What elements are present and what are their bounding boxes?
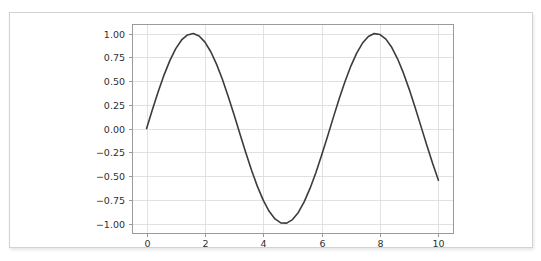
y-tick-label: −0.25 [96, 147, 125, 158]
x-tick-label: 4 [260, 238, 266, 247]
sine-wave-chart[interactable]: −1.00−0.75−0.50−0.250.000.250.500.751.00… [10, 13, 532, 247]
y-tick-label: 0.75 [104, 52, 125, 63]
x-tick-label: 10 [432, 238, 444, 247]
y-tick-label: −1.00 [96, 219, 125, 230]
screenshot-root: −1.00−0.75−0.50−0.250.000.250.500.751.00… [0, 0, 541, 261]
y-tick-label: −0.50 [96, 171, 125, 182]
x-tick-label: 2 [202, 238, 208, 247]
x-tick-label: 8 [377, 238, 383, 247]
y-tick-label: 0.50 [104, 76, 125, 87]
figure-card: −1.00−0.75−0.50−0.250.000.250.500.751.00… [9, 12, 533, 248]
x-tick-label: 0 [144, 238, 150, 247]
y-tick-label: 0.25 [104, 100, 125, 111]
y-tick-label: 1.00 [104, 29, 125, 40]
x-tick-label: 6 [319, 238, 325, 247]
y-tick-label: 0.00 [104, 124, 125, 135]
y-tick-label: −0.75 [96, 195, 125, 206]
